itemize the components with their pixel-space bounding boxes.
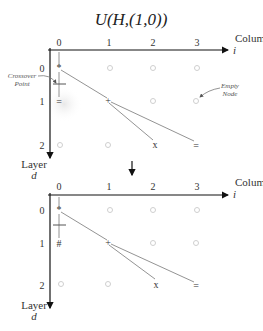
empty-node-0-2 [151,208,156,213]
empty-node-1-3 [194,99,199,104]
node-1-0: = [56,96,62,107]
top-diagram: 0 1 2 3 Column i 0 1 2 Layer d * = + x = [8,32,263,181]
edge-11-22 [109,245,155,279]
empty-node-label-line2: Node [222,90,238,98]
empty-node-0-1 [108,66,113,71]
column-tick-3: 3 [195,181,200,192]
column-axis-label: Column [235,32,263,44]
layer-tick-1: 1 [40,96,45,107]
empty-node-2-1 [106,282,111,287]
column-tick-1: 1 [107,181,112,192]
diagram-canvas: U(H,(1,0)) 0 1 2 3 Column i 0 1 2 Layer … [0,0,263,331]
empty-node-label-line1: Empty [220,82,240,90]
empty-node-1-2 [151,99,156,104]
node-0-0: * [57,204,62,215]
layer-tick-0: 0 [40,63,45,74]
empty-node-2-0 [58,143,63,148]
column-axis-var: i [233,44,236,56]
crossover-pointer-arrow [38,76,56,83]
layer-axis-var: d [31,169,37,181]
column-axis-var: i [233,188,236,200]
empty-node-pointer-arrow [200,88,220,97]
edge-00-11 [61,212,107,240]
column-tick-3: 3 [195,37,200,48]
node-0-0: * [57,62,62,73]
edge-11-23 [111,102,194,141]
node-2-2: x [154,279,159,290]
empty-node-0-3 [195,66,200,71]
node-1-0: # [57,238,62,249]
layer-tick-0: 0 [40,205,45,216]
node-1-1: + [105,95,111,106]
layer-tick-1: 1 [40,238,45,249]
empty-node-2-0 [59,282,64,287]
column-tick-2: 2 [151,37,156,48]
empty-node-0-1 [108,208,113,213]
empty-node-1-2 [151,241,156,246]
diagram-title: U(H,(1,0)) [95,10,168,29]
edge-11-22 [109,103,153,140]
empty-node-0-2 [151,66,156,71]
highlight-region [46,86,82,122]
node-1-1: + [105,237,111,248]
crossover-label-line1: Crossover [8,72,37,80]
edge-11-23 [111,244,194,282]
layer-tick-2: 2 [40,140,45,151]
empty-node-2-1 [106,143,111,148]
empty-node-0-3 [195,208,200,213]
column-tick-0: 0 [57,37,62,48]
column-axis-label: Column [235,176,263,188]
layer-axis-var: d [31,310,37,322]
node-2-3: = [193,280,199,291]
column-tick-0: 0 [57,181,62,192]
crossover-label-line2: Point [13,80,30,88]
empty-node-1-3 [194,241,199,246]
bottom-diagram: 0 1 2 3 Column i 0 1 2 Layer d * # + x = [21,176,263,322]
layer-tick-2: 2 [40,280,45,291]
column-tick-2: 2 [151,181,156,192]
column-tick-1: 1 [107,37,112,48]
node-2-3: = [193,140,199,151]
node-2-2: x [153,139,158,150]
